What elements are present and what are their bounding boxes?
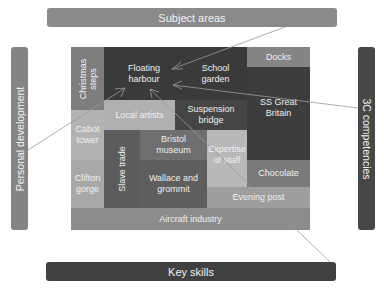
3c-competencies-label: 3C competencies bbox=[361, 98, 373, 179]
cell-suspension-bridge: Suspension bridge bbox=[175, 100, 247, 130]
evening-post-label: Evening post bbox=[232, 192, 284, 203]
cell-clifton-gorge: Clifton gorge bbox=[71, 160, 104, 208]
personal-development-label: Personal development bbox=[14, 86, 26, 190]
3c-competencies-bar: 3C competencies bbox=[358, 47, 375, 230]
subject-areas-bar: Subject areas bbox=[47, 8, 337, 27]
clifton-gorge-label: Clifton gorge bbox=[74, 173, 102, 195]
cell-school-garden: School garden bbox=[184, 47, 247, 100]
school-garden-label: School garden bbox=[196, 63, 236, 85]
slave-trade-label: Slave trade bbox=[117, 146, 127, 192]
bristol-museum-label: Bristol museum bbox=[152, 134, 196, 156]
expertise-of-staff-label: Expertise of staff bbox=[208, 144, 246, 166]
cell-local-artists: Local artists bbox=[104, 100, 175, 130]
cell-floating-harbour: Floating harbour bbox=[104, 47, 184, 100]
floating-harbour-label: Floating harbour bbox=[119, 63, 169, 85]
cell-aircraft-industry: Aircraft industry bbox=[71, 208, 310, 230]
cell-chocolate: Chocolate bbox=[247, 160, 310, 187]
wallace-and-grommit-label: Wallace and grommit bbox=[144, 173, 204, 195]
cell-ss-great-britain: SS Great Britain bbox=[247, 67, 310, 160]
key-skills-bar: Key skills bbox=[46, 262, 336, 281]
chocolate-label: Chocolate bbox=[258, 168, 299, 179]
subject-areas-label: Subject areas bbox=[158, 12, 225, 24]
cell-expertise-of-staff: Expertise of staff bbox=[207, 130, 247, 187]
cell-evening-post: Evening post bbox=[207, 187, 310, 208]
ss-great-britain-label: SS Great Britain bbox=[254, 97, 304, 119]
cell-bristol-museum: Bristol museum bbox=[140, 130, 207, 160]
cell-cabot-tower: Cabot tower bbox=[71, 110, 104, 160]
cell-wallace-and-grommit: Wallace and grommit bbox=[140, 160, 207, 208]
docks-label: Docks bbox=[266, 52, 291, 63]
personal-development-bar: Personal development bbox=[11, 47, 28, 230]
cell-slave-trade: Slave trade bbox=[104, 130, 140, 208]
aircraft-industry-label: Aircraft industry bbox=[159, 214, 222, 225]
cell-christmas-steps: Christmas steps bbox=[71, 47, 104, 110]
local-artists-label: Local artists bbox=[115, 110, 163, 121]
cell-docks: Docks bbox=[247, 47, 310, 67]
key-skills-label: Key skills bbox=[168, 266, 214, 278]
suspension-bridge-label: Suspension bridge bbox=[181, 104, 241, 126]
cabot-tower-label: Cabot tower bbox=[74, 124, 102, 146]
christmas-steps-label: Christmas steps bbox=[77, 57, 98, 101]
